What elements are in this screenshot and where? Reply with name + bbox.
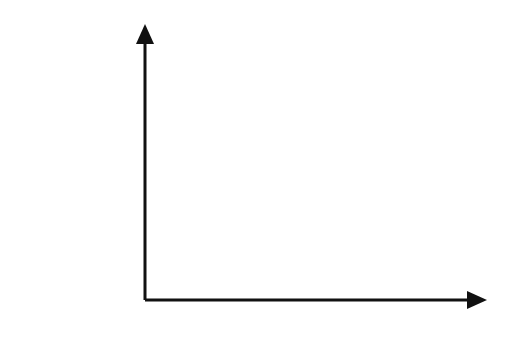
chart-canvas	[0, 0, 517, 347]
x-axis-arrow-icon	[467, 291, 487, 309]
y-axis-arrow-icon	[136, 24, 154, 44]
